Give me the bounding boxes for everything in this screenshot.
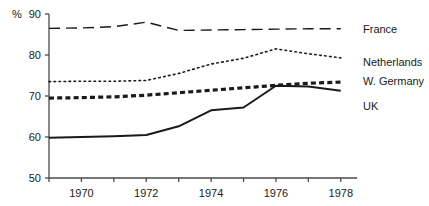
series-line-w-germany: [49, 82, 341, 98]
legend-label-w-germany: W. Germany: [363, 75, 425, 87]
y-axis-tick-label: 80: [29, 49, 41, 61]
legend-label-uk: UK: [363, 100, 379, 112]
series-line-france: [49, 22, 341, 30]
x-axis-tick-label: 1974: [199, 187, 223, 199]
y-axis-tick-label: 90: [29, 8, 41, 20]
series-line-uk: [49, 86, 341, 138]
x-axis-tick-label: 1976: [264, 187, 288, 199]
series-line-netherlands: [49, 49, 341, 82]
legend-label-france: France: [363, 23, 397, 35]
x-axis-tick-label: 1978: [329, 187, 353, 199]
x-axis-tick-label: 1970: [69, 187, 93, 199]
legend-label-netherlands: Netherlands: [363, 56, 423, 68]
y-axis-tick-label: 70: [29, 90, 41, 102]
x-axis-tick-label: 1972: [134, 187, 158, 199]
line-chart: 5060708090%19701972197419761978FranceNet…: [0, 0, 429, 206]
y-axis-unit-label: %: [12, 8, 22, 20]
y-axis-tick-label: 60: [29, 131, 41, 143]
chart-canvas: 5060708090%19701972197419761978FranceNet…: [0, 0, 429, 206]
y-axis-tick-label: 50: [29, 172, 41, 184]
